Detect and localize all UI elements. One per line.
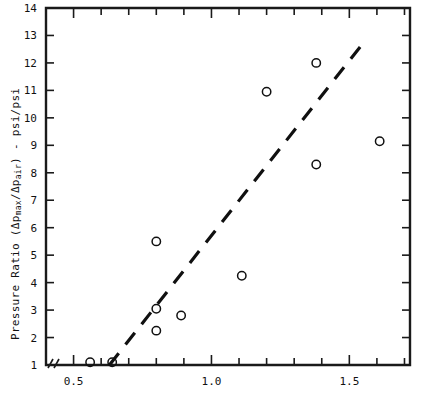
y-tick-label-4: 4 (30, 277, 37, 290)
y-tick-label-9: 9 (30, 139, 37, 152)
y-tick-label-13: 13 (24, 29, 37, 42)
y-tick-label-6: 6 (30, 222, 37, 235)
chart-figure: Pressure Ratio (Δpmax/Δpair) - psi/psi 1… (0, 0, 423, 406)
x-tick-label-1.5: 1.5 (339, 375, 359, 388)
scatter-plot-svg: Pressure Ratio (Δpmax/Δpair) - psi/psi 1… (0, 0, 423, 406)
y-tick-label-2: 2 (30, 332, 37, 345)
y-axis-label-suffix: ) - psi/psi (9, 88, 22, 164)
y-tick-label-3: 3 (30, 304, 37, 317)
x-tick-label-0.5: 0.5 (64, 375, 84, 388)
y-axis-label-sub-air: air (14, 164, 23, 179)
chart-background (0, 0, 423, 406)
y-tick-label-10: 10 (24, 112, 37, 125)
x-tick-label-1: 1.0 (202, 375, 222, 388)
y-axis-label-prefix: Pressure Ratio (Δp (9, 215, 22, 340)
y-tick-label-1: 1 (30, 359, 37, 372)
y-axis-label-mid: /Δp (9, 179, 22, 200)
y-tick-label-8: 8 (30, 167, 37, 180)
y-tick-label-12: 12 (24, 57, 37, 70)
y-tick-label-5: 5 (30, 249, 37, 262)
y-tick-label-11: 11 (24, 84, 37, 97)
y-tick-label-14: 14 (24, 2, 38, 15)
y-axis-label-sub-max: max (14, 200, 23, 215)
y-tick-label-7: 7 (30, 194, 37, 207)
